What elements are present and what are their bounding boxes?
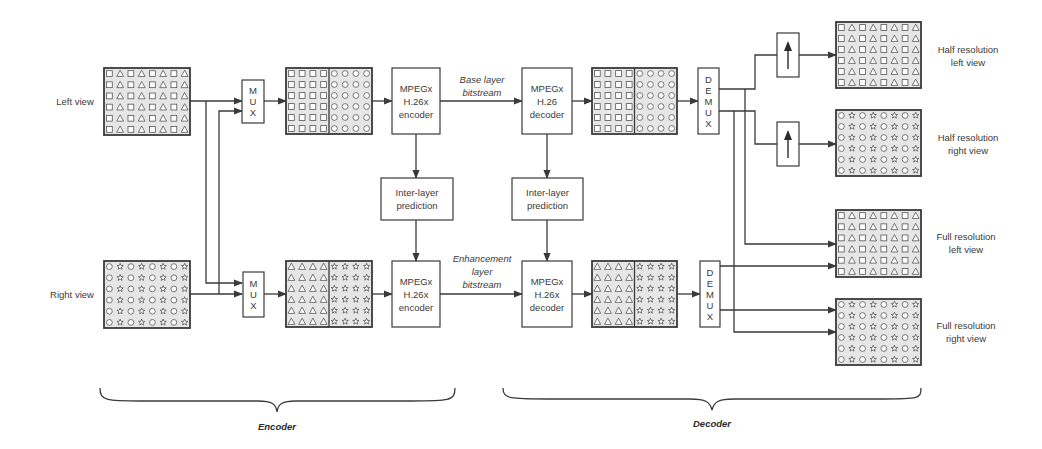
packed-base-frame-dec bbox=[592, 68, 677, 134]
demux-top-label: DEMUX bbox=[705, 74, 713, 129]
decoder-enhancement-label: MPEGxH.26xdecoder bbox=[530, 276, 564, 313]
left-view-label: Left view bbox=[56, 96, 94, 107]
encoder-brace bbox=[100, 388, 455, 412]
inter-layer-prediction-decoder bbox=[512, 178, 583, 220]
right-view-frame bbox=[104, 261, 190, 328]
half-res-left-frame bbox=[836, 22, 921, 88]
full-res-left-frame bbox=[836, 210, 921, 277]
packed-enh-frame-dec bbox=[592, 261, 677, 327]
half-res-left-label: Half resolutionleft view bbox=[938, 44, 999, 68]
upsample-left bbox=[777, 33, 799, 77]
half-res-right-label: Half resolutionright view bbox=[938, 132, 999, 156]
mux-bottom-label: MUX bbox=[250, 278, 258, 311]
encoder-section-label: Encoder bbox=[258, 421, 297, 432]
enhancement-layer-bitstream-label: Enhancementlayerbitstream bbox=[453, 253, 512, 290]
full-res-right-label: Full resolutionright view bbox=[936, 320, 995, 344]
inter-layer-prediction-encoder bbox=[381, 178, 453, 220]
half-res-right-frame bbox=[836, 110, 921, 176]
full-res-left-label: Full resolutionleft view bbox=[936, 231, 995, 255]
left-view-frame bbox=[104, 68, 190, 135]
mux-top-label: MUX bbox=[249, 85, 257, 118]
full-res-right-frame bbox=[836, 299, 921, 365]
decoder-brace bbox=[503, 388, 921, 410]
demux-bottom-label: DEMUX bbox=[706, 267, 714, 322]
svc-3d-video-diagram: MUXMUXDEMUXDEMUXMPEGxH.26xencoderMPEGxH.… bbox=[0, 0, 1042, 449]
upsample-right bbox=[777, 122, 799, 166]
packed-base-frame-enc bbox=[286, 68, 372, 134]
base-layer-bitstream-label: Base layerbitstream bbox=[460, 74, 506, 98]
decoder-section-label: Decoder bbox=[693, 418, 732, 429]
right-view-label: Right view bbox=[50, 289, 94, 300]
packed-enh-frame-enc bbox=[286, 261, 372, 327]
encoder-enhancement-label: MPEGxH.26xencoder bbox=[399, 276, 433, 313]
encoder-base-label: MPEGxH.26xencoder bbox=[399, 83, 433, 120]
